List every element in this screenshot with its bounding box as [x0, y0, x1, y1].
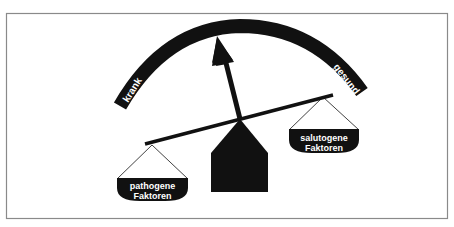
right-pan-label-line1: salutogene: [300, 133, 348, 143]
fulcrum: [211, 119, 268, 192]
right-pan-label-line2: Faktoren: [305, 143, 343, 153]
left-pan-string: [117, 145, 152, 179]
pointer-tip-icon: [212, 36, 234, 66]
left-pan-label-line1: pathogene: [130, 181, 176, 191]
right-pan-string: [323, 97, 359, 130]
left-pan-string: [152, 145, 188, 179]
health-arc: [120, 26, 362, 106]
pointer-shaft: [224, 55, 240, 119]
left-pan-label-line2: Faktoren: [133, 191, 171, 201]
balance-diagram: krank gesund pathogene Faktoren salutoge…: [0, 0, 454, 227]
